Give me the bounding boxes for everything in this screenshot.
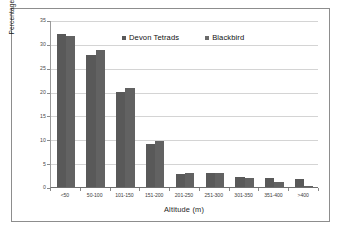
y-axis-tick-mark [47, 140, 50, 141]
x-axis-tick-mark [258, 188, 259, 191]
bar [274, 182, 283, 187]
gridline [51, 21, 318, 22]
x-axis-tick-mark [110, 188, 111, 191]
x-axis-tick-label: 101-150 [110, 192, 140, 198]
bar [215, 173, 224, 187]
x-axis-tick-label: 251-300 [199, 192, 229, 198]
x-axis-tick-mark [169, 188, 170, 191]
bar [304, 186, 313, 187]
y-axis-title: Percentage at each altitude [8, 0, 15, 53]
bar [66, 36, 75, 187]
bar [96, 50, 105, 187]
x-axis-tick-label: 50-100 [80, 192, 110, 198]
bar [155, 141, 164, 187]
bar [265, 178, 274, 187]
gridline [51, 45, 318, 46]
x-axis-tick-label: 351-400 [258, 192, 288, 198]
bar [176, 174, 185, 187]
bar [185, 173, 194, 187]
x-axis-tick-mark [288, 188, 289, 191]
legend-entry-devon-tetrads: Devon Tetrads [122, 33, 179, 42]
bar [295, 179, 304, 187]
bar [116, 92, 125, 187]
x-axis-tick-mark [229, 188, 230, 191]
x-axis-tick-label: 201-250 [169, 192, 199, 198]
figure-frame: Percentage at each altitude Devon Tetrad… [11, 8, 330, 222]
chart-legend: Devon Tetrads Blackbird [122, 33, 244, 42]
x-axis-tick-mark [139, 188, 140, 191]
bar [235, 177, 244, 187]
x-axis-tick-label: >400 [288, 192, 318, 198]
y-axis-tick-mark [47, 164, 50, 165]
x-axis-tick-label: 301-350 [229, 192, 259, 198]
y-axis-tick-mark [47, 116, 50, 117]
bar [125, 88, 134, 187]
legend-swatch-icon [122, 36, 126, 40]
bar-chart: Percentage at each altitude Devon Tetrad… [12, 9, 331, 223]
legend-swatch-icon [205, 36, 209, 40]
x-axis-tick-label: 151-200 [139, 192, 169, 198]
bar [206, 173, 215, 187]
legend-label: Blackbird [212, 33, 244, 42]
y-axis-tick-label: 20 [16, 90, 46, 95]
bar [146, 144, 155, 187]
x-axis-title: Altitude (m) [50, 205, 318, 214]
y-axis-tick-label: 35 [16, 18, 46, 23]
y-axis-tick-mark [47, 21, 50, 22]
y-axis-tick-label: 25 [16, 66, 46, 71]
y-axis-tick-mark [47, 69, 50, 70]
plot-area [50, 21, 318, 188]
y-axis-tick-label: 0 [16, 185, 46, 190]
legend-entry-blackbird: Blackbird [205, 33, 244, 42]
x-axis-tick-mark [80, 188, 81, 191]
y-axis-tick-mark [47, 93, 50, 94]
legend-label: Devon Tetrads [129, 33, 179, 42]
x-axis-tick-label: <50 [50, 192, 80, 198]
x-axis-tick-mark [199, 188, 200, 191]
x-axis-tick-mark [318, 188, 319, 191]
bar [57, 34, 66, 187]
y-axis-tick-label: 30 [16, 42, 46, 47]
y-axis-tick-label: 10 [16, 138, 46, 143]
y-axis-tick-label: 5 [16, 162, 46, 167]
bar [245, 178, 254, 187]
bar [86, 55, 95, 187]
x-axis-tick-mark [50, 188, 51, 191]
y-axis-tick-mark [47, 45, 50, 46]
y-axis-tick-label: 15 [16, 114, 46, 119]
